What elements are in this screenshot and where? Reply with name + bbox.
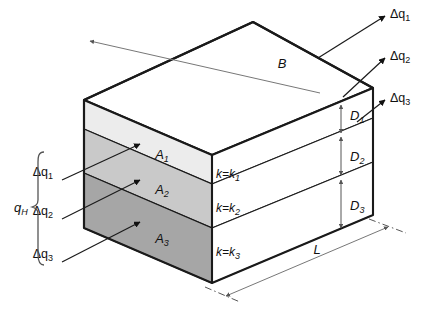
layered-block-diagram: A1 A2 A3 k=k1 k=k2 k=k3 Δq1 Δq2 — [0, 0, 439, 320]
inflow-label-3: Δq3 — [33, 247, 53, 263]
diagram-canvas: A1 A2 A3 k=k1 k=k2 k=k3 Δq1 Δq2 — [0, 0, 439, 320]
outflow-label-2: Δq2 — [390, 49, 410, 65]
dimension-label-b: B — [278, 56, 287, 71]
block-body — [84, 22, 373, 283]
outflow-label-1: Δq1 — [390, 7, 410, 23]
outflow-arrow-1 — [318, 16, 385, 58]
inflow-label-1: Δq1 — [33, 165, 53, 181]
outflow-label-3: Δq3 — [390, 91, 410, 107]
dimension-label-l: L — [313, 242, 320, 257]
extension-line-l-near — [205, 287, 240, 302]
inflow-label-2: Δq2 — [33, 204, 53, 220]
extension-line-l-far — [369, 219, 406, 233]
total-flow-label: qH — [14, 200, 28, 217]
